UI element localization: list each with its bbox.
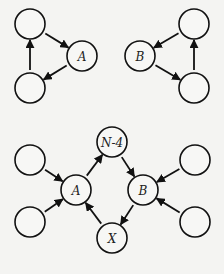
edge-arrow: [157, 169, 180, 182]
edge-arrow: [154, 33, 179, 48]
edge-arrow: [45, 33, 68, 47]
graph-diagram: ABAN-4BX: [0, 0, 224, 274]
node-label: B: [135, 50, 145, 64]
edge-arrow: [45, 170, 63, 181]
node-circle: [180, 145, 210, 175]
node-circle: [180, 207, 210, 237]
edge-arrow: [157, 198, 180, 212]
node-label: X: [107, 232, 117, 246]
graph-node-x: X: [97, 223, 127, 253]
node-circle: [179, 9, 209, 39]
edge-arrow: [155, 65, 180, 80]
edge-arrow: [122, 157, 135, 176]
graph-node-empty: [15, 207, 45, 237]
edge-arrow: [86, 203, 102, 224]
graph-node-n-4: N-4: [97, 127, 127, 157]
edge-arrow: [45, 199, 63, 212]
edge-arrow: [87, 155, 103, 176]
edge-arrow: [121, 205, 134, 224]
graph-node-empty: [179, 9, 209, 39]
node-circle: [15, 9, 45, 39]
node-circle: [15, 145, 45, 175]
graph-node-empty: [15, 73, 45, 103]
graph-node-empty: [15, 9, 45, 39]
graph-node-b: B: [128, 175, 158, 205]
node-label: B: [138, 184, 148, 198]
graph-node-a: A: [67, 41, 97, 71]
graph-node-empty: [180, 145, 210, 175]
graph-node-a: A: [61, 175, 91, 205]
node-label: A: [71, 184, 81, 198]
node-circle: [15, 73, 45, 103]
node-circle: [179, 73, 209, 103]
node-circle: [15, 207, 45, 237]
graph-node-empty: [180, 207, 210, 237]
node-label: A: [77, 50, 87, 64]
nodes: ABAN-4BX: [15, 9, 210, 253]
graph-node-b: B: [125, 41, 155, 71]
node-label: N-4: [100, 136, 123, 150]
graph-node-empty: [179, 73, 209, 103]
graph-node-empty: [15, 145, 45, 175]
edge-arrow: [44, 65, 67, 79]
